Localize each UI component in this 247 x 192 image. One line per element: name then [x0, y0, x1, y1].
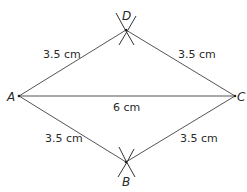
length-label-bc: 3.5 cm [180, 132, 218, 145]
vertex-a [18, 95, 21, 98]
point-label-b: B [122, 175, 130, 189]
edge-dc [126, 30, 235, 96]
length-label-dc: 3.5 cm [178, 48, 216, 61]
length-label-ab: 3.5 cm [45, 132, 83, 145]
vertex-b [125, 161, 128, 164]
length-label-ac: 6 cm [113, 101, 140, 114]
vertex-d [125, 29, 128, 32]
edge-ad [19, 30, 126, 96]
edge-bc [126, 96, 235, 162]
point-label-a: A [6, 90, 15, 104]
construction-diagram: A C D B 3.5 cm 3.5 cm 6 cm 3.5 cm 3.5 cm [0, 0, 247, 192]
point-label-d: D [122, 9, 131, 23]
vertex-c [234, 95, 237, 98]
edge-ab [19, 96, 126, 162]
point-label-c: C [237, 90, 246, 104]
length-label-ad: 3.5 cm [43, 48, 81, 61]
